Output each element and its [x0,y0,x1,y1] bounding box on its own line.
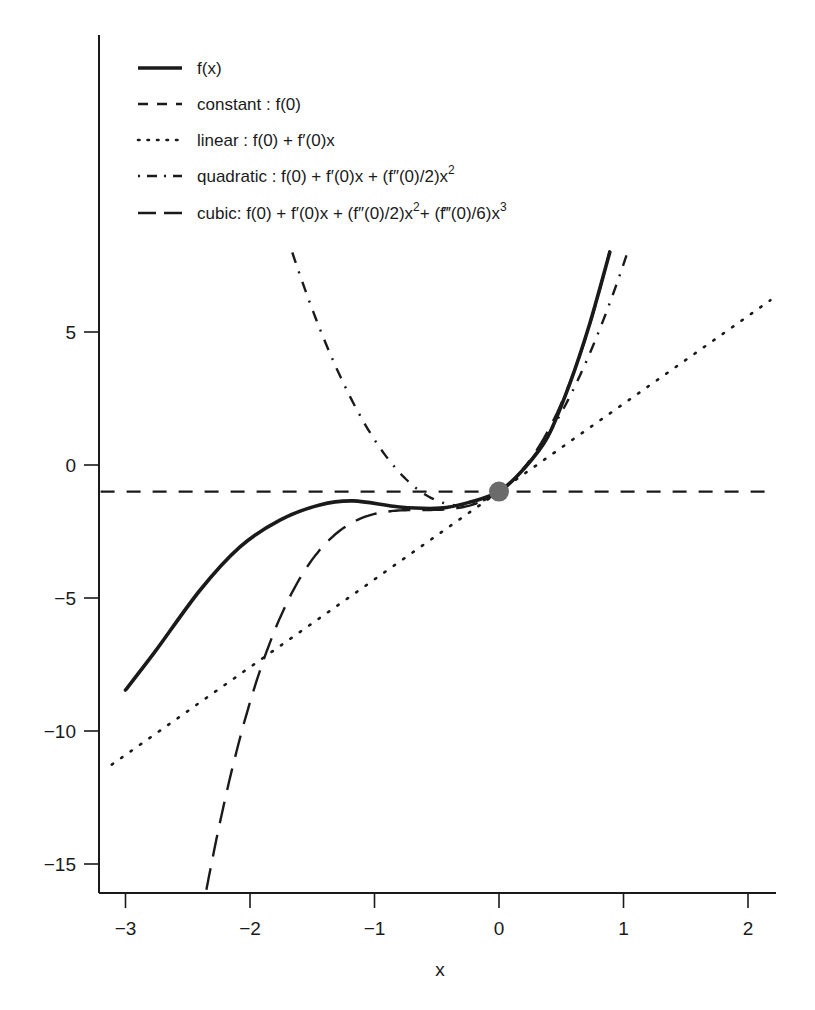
legend-label: f(x) [197,59,222,78]
y-tick-label: 5 [65,322,76,343]
x-tick-label: −2 [239,918,261,939]
taylor-approximation-chart: 50−5−10−15 −3−2−1012 x f(x)constant : f(… [0,0,815,1010]
expansion-point-marker [489,482,509,502]
legend-item: f(x) [138,59,222,78]
x-axis-title: x [435,959,445,980]
legend: f(x)constant : f(0)linear : f(0) + f′(0)… [138,59,507,223]
linear-approximation-line [112,300,771,764]
x-tick-label: −1 [364,918,386,939]
x-tick-label: −3 [115,918,137,939]
f-x-curve [126,252,610,690]
x-tick-label: 0 [494,918,505,939]
legend-label: quadratic : f(0) + f′(0)x + (f″(0)/2)x2 [197,163,455,186]
y-tick-label: −15 [44,854,76,875]
legend-item: constant : f(0) [138,95,301,114]
x-tick-label: 2 [743,918,754,939]
y-axis-ticks: 50−5−10−15 [44,322,99,875]
legend-label: constant : f(0) [197,95,301,114]
legend-label: cubic: f(0) + f′(0)x + (f″(0)/2)x2+ (f‴(… [197,200,507,223]
plot-area [101,249,773,890]
legend-item: linear : f(0) + f′(0)x [138,131,335,150]
legend-item: quadratic : f(0) + f′(0)x + (f″(0)/2)x2 [138,163,455,186]
quadratic-approximation-curve [292,249,628,505]
legend-item: cubic: f(0) + f′(0)x + (f″(0)/2)x2+ (f‴(… [138,200,507,223]
legend-label: linear : f(0) + f′(0)x [197,131,335,150]
y-tick-label: −5 [54,588,76,609]
cubic-approximation-curve [206,251,609,890]
y-tick-label: 0 [65,455,76,476]
y-tick-label: −10 [44,721,76,742]
x-axis-ticks: −3−2−1012 [115,893,754,939]
x-tick-label: 1 [618,918,629,939]
